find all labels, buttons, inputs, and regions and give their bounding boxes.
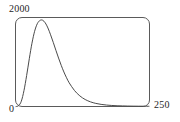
y-axis-max-label: 2000 [9,4,30,14]
chart-container: 2000 0 250 [0,0,180,122]
x-axis-min-label: 0 [9,104,14,114]
plot-frame [15,17,150,107]
x-axis-max-label: 250 [154,100,170,110]
